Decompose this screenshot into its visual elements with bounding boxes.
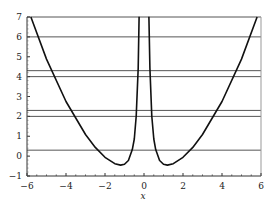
axes-frame: [27, 17, 261, 176]
x-axis-title: x: [140, 191, 145, 201]
x-tick-label: −6: [20, 181, 34, 191]
y-tick-label: 2: [16, 111, 22, 121]
horizontal-lines: [27, 17, 261, 150]
y-tick-label: 0: [16, 151, 22, 161]
chart: −6−4−20246 −101234567 x: [0, 0, 275, 208]
curve-branch-right: [149, 17, 257, 165]
x-tick-label: 2: [180, 181, 186, 191]
y-tick-label: 7: [16, 12, 22, 22]
y-tick-label: 6: [16, 32, 22, 42]
curve-series: [31, 17, 257, 165]
y-tick-label: −1: [9, 171, 22, 181]
y-tick-label: 1: [16, 131, 22, 141]
x-tick-label: −2: [98, 181, 111, 191]
y-tick-label: 5: [16, 52, 22, 62]
x-tick-label: −4: [59, 181, 73, 191]
x-tick-label: 6: [258, 181, 264, 191]
x-tick-label: 0: [141, 181, 147, 191]
curve-branch-left: [31, 17, 139, 165]
x-tick-label: 4: [219, 181, 225, 191]
y-tick-label: 4: [16, 72, 22, 82]
y-tick-label: 3: [16, 92, 22, 102]
